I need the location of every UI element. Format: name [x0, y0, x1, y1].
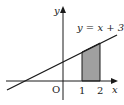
origin-label: O	[52, 84, 60, 95]
line-equation-label: y = x + 3	[76, 22, 124, 33]
y-axis-arrow-icon	[60, 6, 66, 13]
x-axis-label: x	[112, 84, 118, 95]
coordinate-diagram: y y = x + 3 O 1 2 x	[0, 0, 124, 105]
x-tick-1: 1	[79, 85, 85, 96]
y-axis-label: y	[53, 5, 60, 16]
x-tick-2: 2	[97, 85, 103, 96]
